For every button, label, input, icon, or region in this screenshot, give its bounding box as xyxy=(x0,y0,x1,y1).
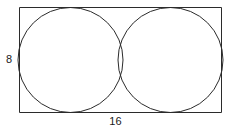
width-dimension-label: 16 xyxy=(0,116,229,127)
geometry-figure: 8 16 xyxy=(0,0,229,128)
rectangle-shape xyxy=(20,8,222,113)
width-dimension-value: 16 xyxy=(109,115,122,127)
figure-canvas xyxy=(0,0,229,128)
height-dimension-label: 8 xyxy=(6,54,12,65)
